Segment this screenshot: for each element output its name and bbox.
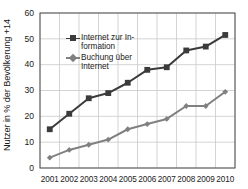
data-point-marker-diamond (144, 121, 150, 127)
legend-label-line2: Internet (81, 62, 109, 71)
chart-container: Nutzer in % der Bevölkerung +14 60504030… (0, 0, 248, 189)
data-point-marker-diamond (86, 142, 92, 148)
data-point-marker-diamond (66, 147, 72, 153)
data-point-marker-square (203, 44, 209, 50)
legend-item-internet-zur-information: Internet zur In- formation (66, 33, 144, 52)
legend-label-line1: Buchung über (81, 53, 132, 62)
data-point-marker-diamond (47, 155, 53, 161)
data-point-marker-square (105, 90, 111, 96)
chart-legend: Internet zur In- formation Buchung über … (66, 33, 144, 73)
data-point-marker-square (47, 126, 53, 132)
plot-area (0, 0, 248, 189)
data-point-marker-square (144, 67, 150, 73)
data-point-marker-square (164, 64, 170, 70)
legend-label-buchung-ueber-internet: Buchung über Internet (80, 53, 132, 72)
legend-item-buchung-ueber-internet: Buchung über Internet (66, 53, 144, 72)
legend-marker-square-icon (66, 33, 80, 44)
data-point-marker-square (66, 111, 72, 117)
data-point-marker-square (125, 80, 131, 86)
legend-marker-diamond-icon (66, 53, 80, 64)
data-point-marker-square (222, 32, 228, 38)
legend-label-line2: formation (81, 42, 115, 51)
legend-label-internet-zur-information: Internet zur In- formation (80, 33, 134, 52)
data-point-marker-square (86, 95, 92, 101)
legend-label-line1: Internet zur In- (81, 33, 134, 42)
data-point-marker-square (183, 48, 189, 54)
